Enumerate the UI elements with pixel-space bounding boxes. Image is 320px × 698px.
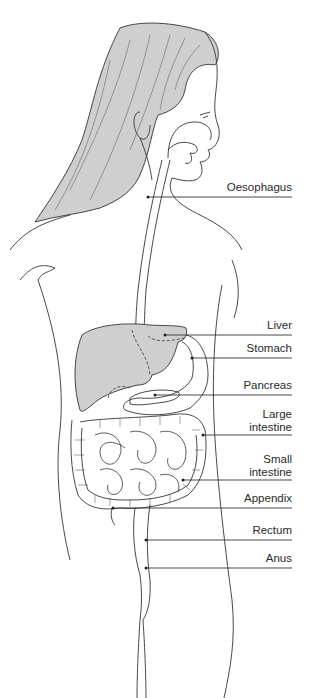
appendix [111,508,115,525]
oral-cavity [168,142,197,163]
liver [75,324,187,411]
label-rectum: Rectum [252,524,292,537]
back-contour [232,260,238,318]
torso-left [58,430,70,560]
small-intestine [95,431,186,495]
leg-inner-left [137,620,140,698]
large-intestine [71,414,206,509]
eye [200,112,210,118]
label-small-intestine: Small intestine [249,453,292,479]
label-pancreas: Pancreas [243,379,292,392]
label-stomach: Stomach [247,342,292,355]
rectum-inner [143,505,150,620]
label-appendix: Appendix [244,492,292,505]
label-oesophagus: Oesophagus [227,181,292,194]
leg-inner-right [143,620,146,698]
rectum [134,508,142,620]
label-large-intestine: Large intestine [249,408,292,434]
arm [20,266,61,430]
label-liver: Liver [267,319,292,332]
pancreas [130,390,179,405]
oesophagus-tube-inner [144,160,170,350]
torso-right [213,285,233,698]
label-anus: Anus [266,552,292,565]
